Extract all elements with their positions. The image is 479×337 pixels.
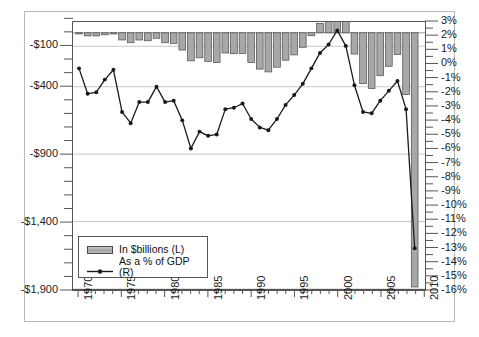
right-axis-tick-label: -4% — [441, 113, 479, 125]
x-axis-tick-label: 1990 — [255, 276, 267, 300]
right-axis-tick-label: -8% — [441, 170, 479, 182]
right-axis-tick-label: -14% — [441, 255, 479, 267]
left-axis-tick-label: -$1,400 — [0, 215, 58, 227]
right-axis-tick-label: -13% — [441, 241, 479, 253]
right-axis-tick-label: -16% — [441, 283, 479, 295]
x-axis-tick-label: 2000 — [342, 276, 354, 300]
right-axis-tick-label: -7% — [441, 156, 479, 168]
right-axis-tick-label: -11% — [441, 212, 479, 224]
left-axis-tick-label: -$900 — [0, 147, 58, 159]
right-axis-tick-label: 1% — [441, 42, 479, 54]
right-axis-tick-label: 2% — [441, 28, 479, 40]
chart-root: -$100-$400-$900-$1,400-$1,900 3%2%1%0%-1… — [0, 0, 479, 337]
legend-line-marker-icon — [87, 262, 113, 271]
right-axis-tick-label: -2% — [441, 85, 479, 97]
x-axis-tick-label: 1980 — [169, 276, 181, 300]
x-axis-tick-label: 2010 — [428, 276, 440, 300]
left-axis-tick-label: -$400 — [0, 79, 58, 91]
x-axis-tick-label: 1975 — [125, 276, 137, 300]
right-axis-tick-label: -3% — [441, 99, 479, 111]
chart-legend: In $billions (L) As a % of GDP (R) — [78, 236, 208, 278]
right-axis-tick-label: -9% — [441, 184, 479, 196]
right-axis-tick-label: -6% — [441, 141, 479, 153]
x-axis-tick-label: 1970 — [82, 276, 94, 300]
legend-bar-swatch-icon — [87, 246, 113, 254]
right-axis-ticks — [425, 16, 438, 296]
right-axis-tick-label: 3% — [441, 14, 479, 26]
x-axis-tick-label: 1985 — [212, 276, 224, 300]
left-axis-tick-label: -$1,900 — [0, 283, 58, 295]
x-axis-tick-label: 1995 — [298, 276, 310, 300]
legend-label-line: As a % of GDP (R) — [119, 256, 201, 278]
right-axis-tick-label: -15% — [441, 269, 479, 281]
legend-item-line: As a % of GDP (R) — [85, 259, 201, 274]
right-axis-tick-label: -10% — [441, 198, 479, 210]
right-axis-tick-label: -12% — [441, 226, 479, 238]
x-axis-tick-label: 2005 — [385, 276, 397, 300]
right-axis-tick-label: 0% — [441, 56, 479, 68]
legend-label-bars: In $billions (L) — [119, 244, 184, 255]
right-axis-tick-label: -5% — [441, 127, 479, 139]
left-axis-tick-label: -$100 — [0, 38, 58, 50]
right-axis-tick-label: -1% — [441, 71, 479, 83]
